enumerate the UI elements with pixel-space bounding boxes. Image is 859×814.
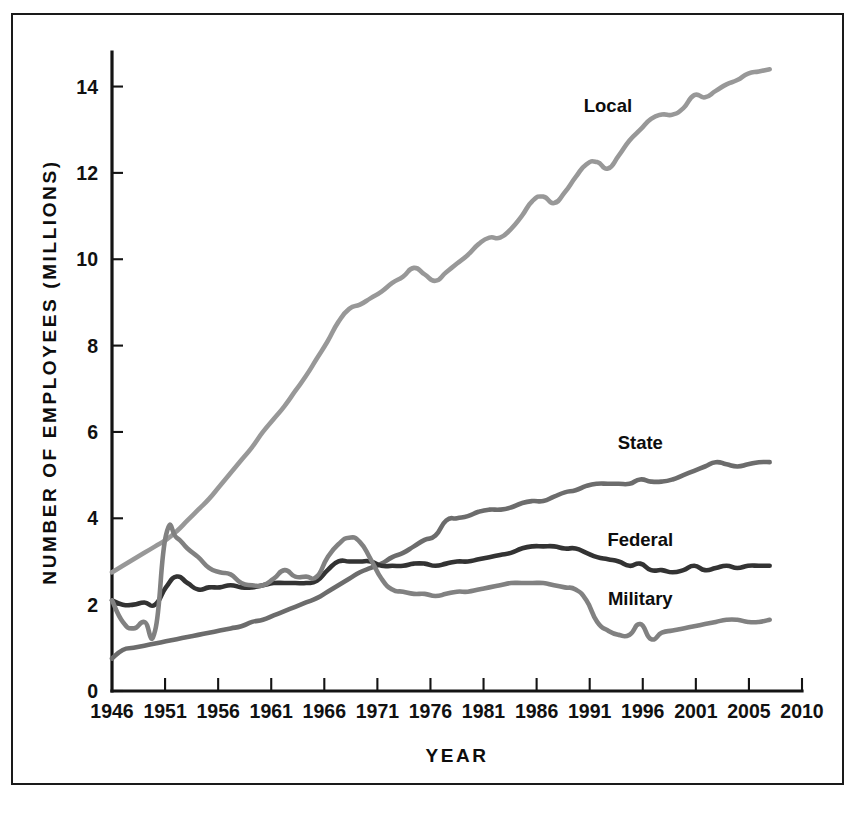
x-tick-label: 1946 xyxy=(90,700,134,722)
y-tick-label: 8 xyxy=(87,335,98,357)
y-tick-label: 2 xyxy=(87,594,98,616)
x-tick-label: 1976 xyxy=(409,700,453,722)
x-tick-label: 1991 xyxy=(568,700,612,722)
series-label-military: Military xyxy=(608,588,673,609)
x-tick-label: 1961 xyxy=(250,700,294,722)
x-tick-label: 1996 xyxy=(621,700,665,722)
series-line-local xyxy=(112,69,770,572)
series-label-state: State xyxy=(618,432,663,453)
line-chart: 02468101214 1946195119561961196619711976… xyxy=(0,0,859,814)
chart-svg: 02468101214 1946195119561961196619711976… xyxy=(0,0,859,814)
y-tick-label: 0 xyxy=(87,680,98,702)
x-tick-label: 1981 xyxy=(462,700,506,722)
x-tick-label: 2001 xyxy=(674,700,718,722)
y-axis-title: NUMBER OF EMPLOYEES (MILLIONS) xyxy=(39,159,60,584)
y-tick-label: 12 xyxy=(76,162,98,184)
y-tick-label: 6 xyxy=(87,421,98,443)
series-annotations: LocalStateFederalMilitary xyxy=(584,95,674,608)
y-tick-label: 14 xyxy=(76,76,98,98)
series-label-local: Local xyxy=(584,95,632,116)
x-tick-label: 1966 xyxy=(303,700,347,722)
x-tick-label: 2010 xyxy=(780,700,824,722)
x-axis-ticks: 1946195119561961196619711976198119861991… xyxy=(90,678,824,722)
y-tick-label: 10 xyxy=(76,248,98,270)
x-tick-label: 1971 xyxy=(356,700,400,722)
x-axis-title: YEAR xyxy=(425,745,488,766)
x-tick-label: 1986 xyxy=(515,700,559,722)
x-tick-label: 2005 xyxy=(727,700,771,722)
x-tick-label: 1951 xyxy=(143,700,187,722)
y-tick-label: 4 xyxy=(87,507,98,529)
x-tick-label: 1956 xyxy=(196,700,240,722)
series-lines xyxy=(112,69,770,658)
series-label-federal: Federal xyxy=(607,529,673,550)
